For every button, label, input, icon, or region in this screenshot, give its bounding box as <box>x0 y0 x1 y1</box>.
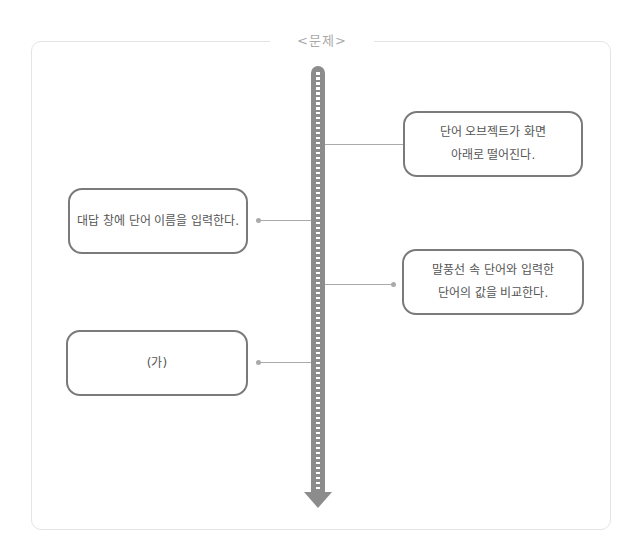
step-3-line-1: 말풍선 속 단어와 입력한 <box>432 259 553 282</box>
step-3-line-2: 단어의 값을 비교한다. <box>432 282 553 305</box>
timeline-arrow-shaft <box>311 66 325 494</box>
step-1-line-2: 아래로 떨어진다. <box>440 144 547 167</box>
connector-line-4 <box>258 362 311 363</box>
step-1-line-1: 단어 오브젝트가 화면 <box>440 121 547 144</box>
connector-line-2 <box>258 220 311 221</box>
down-arrow-icon <box>304 492 332 508</box>
dotted-line-decoration <box>316 72 320 494</box>
step-4-line-1: (가) <box>147 352 167 375</box>
diagram-title: <문제> <box>270 29 374 53</box>
step-box-1: 단어 오브젝트가 화면 아래로 떨어진다. <box>403 111 583 177</box>
connector-dot-2 <box>256 218 261 223</box>
step-box-3: 말풍선 속 단어와 입력한 단어의 값을 비교한다. <box>402 249 584 315</box>
step-box-4: (가) <box>66 330 248 396</box>
connector-dot-4 <box>256 360 261 365</box>
step-2-line-1: 대답 창에 단어 이름을 입력한다. <box>77 210 239 233</box>
step-box-2: 대답 창에 단어 이름을 입력한다. <box>68 188 248 254</box>
connector-line-3 <box>325 284 393 285</box>
connector-dot-3 <box>391 282 396 287</box>
